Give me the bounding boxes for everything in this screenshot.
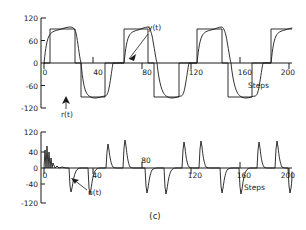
top-panel: 120 60 0 -60 -120 0 40 80 120 160 200 St… [21,14,295,119]
bottom-ytick-label-0: 0 [33,164,38,173]
annotation-arrow-rt [62,96,70,109]
top-ytick-label-0: 0 [33,59,38,68]
bottom-ytick-label-120: 120 [24,128,39,137]
annotation-label-rt: r(t) [61,110,73,119]
annotation-arrow-yt [129,34,148,61]
bottom-xtick-label-0: 0 [43,171,48,180]
annotation-arrow-ut [71,178,87,190]
annotation-label-yt: y(t) [148,23,161,32]
bottom-ytick-label-neg120: -120 [21,199,38,208]
figure-svg: 120 60 0 -60 -120 0 40 80 120 160 200 St… [0,0,306,230]
figure-caption: (c) [149,211,160,221]
top-ytick-label-120: 120 [24,14,39,23]
top-xtick-label-160: 160 [238,68,253,77]
top-ytick-label-neg120: -120 [21,104,38,113]
bottom-panel: 120 40 0 -40 -120 0 40 80 120 160 200 St… [21,128,295,208]
figure-container: 120 60 0 -60 -120 0 40 80 120 160 200 St… [0,0,306,230]
top-xtick-label-40: 40 [93,68,103,77]
top-xtick-label-80: 80 [142,68,152,77]
bottom-ytick-label-40: 40 [28,148,38,157]
top-xtick-label-120: 120 [189,68,204,77]
top-xtick-label-0: 0 [43,68,48,77]
top-ytick-label-neg60: -60 [26,82,38,91]
bottom-xaxis-title: Steps [244,183,265,192]
bottom-xtick-label-80: 80 [141,156,151,165]
bottom-xtick-label-120: 120 [188,171,203,180]
annotation-label-ut: u(t) [88,188,102,197]
top-xtick-label-200: 200 [281,68,296,77]
top-ytick-label-60: 60 [28,37,38,46]
bottom-ytick-label-neg40: -40 [26,180,38,189]
